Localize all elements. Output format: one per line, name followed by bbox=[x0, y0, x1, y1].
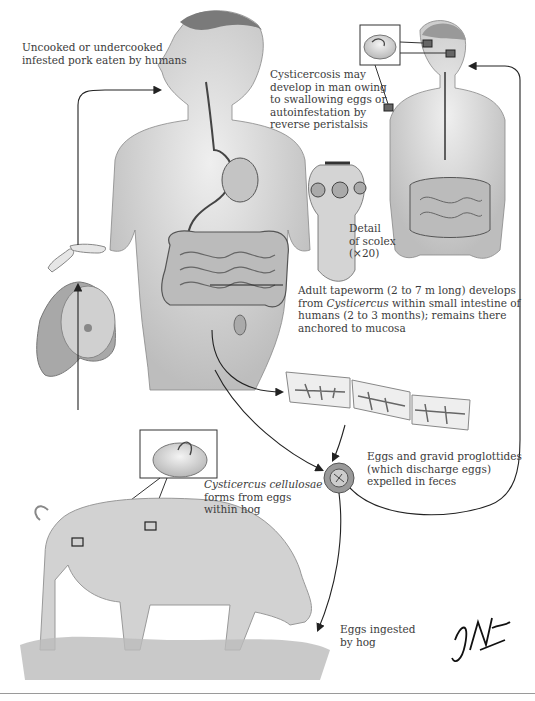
human-figure-cysticercosis bbox=[384, 21, 505, 259]
netter-signature bbox=[452, 618, 510, 661]
sausage bbox=[48, 244, 106, 272]
label-pork: Uncooked or undercooked infested pork ea… bbox=[22, 41, 187, 66]
ham bbox=[37, 282, 116, 376]
label-eggs-ingested: Eggs ingested by hog bbox=[340, 623, 415, 648]
life-cycle-illustration bbox=[0, 0, 535, 701]
bottom-divider bbox=[0, 693, 535, 694]
egg bbox=[324, 463, 354, 493]
label-eggs-proglottides: Eggs and gravid proglottides (which disc… bbox=[367, 450, 522, 488]
arrow-proglottids-to-egg bbox=[333, 425, 345, 460]
label-scolex: Detail of scolex (×20) bbox=[349, 222, 396, 260]
label-cysticercus-cellulosae: Cysticercus cellulosae forms from eggs w… bbox=[204, 478, 323, 516]
label-adult-tapeworm: Adult tapeworm (2 to 7 m long) develops … bbox=[298, 284, 520, 334]
label-cysticercosis: Cysticercosis may develop in man owing t… bbox=[270, 68, 387, 131]
hog bbox=[20, 498, 330, 680]
proglottids bbox=[286, 372, 470, 430]
